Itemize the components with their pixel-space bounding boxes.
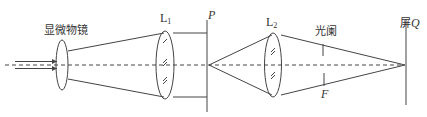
beam-lower-4 bbox=[281, 65, 405, 95]
plane-p-label: P bbox=[207, 8, 216, 22]
beam-lower-1 bbox=[68, 79, 164, 97]
lens-l2-hatch bbox=[271, 48, 275, 79]
objective-label: 显微物镜 bbox=[44, 23, 88, 37]
aperture-label: 光阑 bbox=[315, 24, 337, 38]
screen-q-label: 屏Q bbox=[400, 16, 420, 30]
lens-l1-label: L1 bbox=[160, 11, 171, 26]
focus-label: F bbox=[320, 87, 329, 101]
lens-l2-label: L2 bbox=[266, 15, 277, 30]
beam-lower-3 bbox=[209, 65, 272, 95]
optical-setup-diagram: 显微物镜 L1 P L2 光阑 F 屏Q bbox=[0, 0, 427, 117]
beam-upper-3 bbox=[209, 35, 272, 65]
lens-l1-hatch bbox=[163, 39, 167, 84]
beam-upper-4 bbox=[281, 35, 405, 65]
